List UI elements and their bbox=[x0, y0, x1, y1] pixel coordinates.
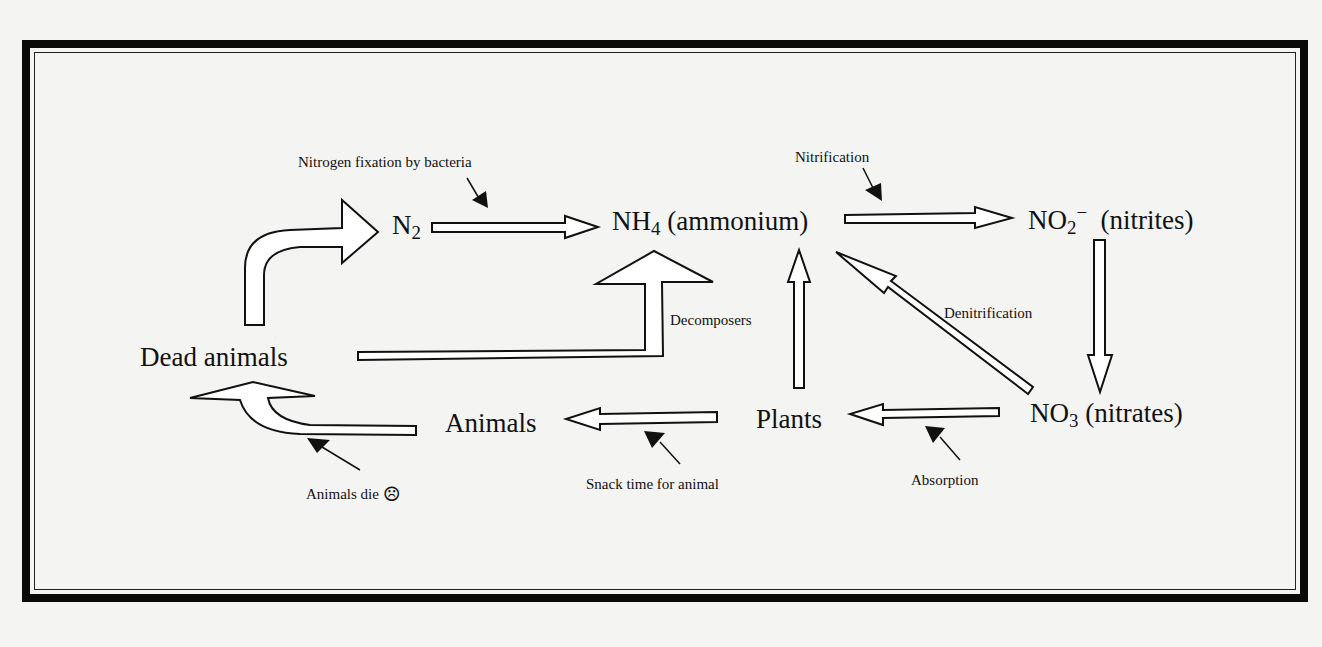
arrow-dead-to-nh4 bbox=[358, 251, 713, 360]
label-denitrification: Denitrification bbox=[944, 306, 1032, 321]
node-no3: NO3 (nitrates) bbox=[1030, 400, 1183, 431]
arrows-layer bbox=[0, 0, 1322, 647]
sad-face-icon: ☹ bbox=[383, 483, 401, 505]
arrow-n2-to-nh4 bbox=[432, 216, 598, 238]
arrow-no2-to-no3 bbox=[1088, 240, 1112, 392]
label-decomposers: Decomposers bbox=[670, 313, 752, 328]
label-snack-time: Snack time for animal bbox=[586, 477, 719, 492]
node-n2: N2 bbox=[392, 212, 421, 243]
pointer-nitrification bbox=[865, 183, 882, 201]
pointer-nitrogen-fixation bbox=[472, 191, 488, 208]
arrow-nh4-to-no2 bbox=[845, 207, 1012, 228]
arrow-no3-to-plants bbox=[850, 404, 999, 425]
node-dead-animals: Dead animals bbox=[140, 344, 288, 371]
label-nitrification: Nitrification bbox=[795, 150, 869, 165]
node-animals: Animals bbox=[445, 410, 537, 437]
curved-arrow-dead-to-n2 bbox=[245, 200, 378, 325]
node-no2: NO2− (nitrites) bbox=[1028, 204, 1194, 238]
node-nh4: NH4 (ammonium) bbox=[612, 208, 808, 239]
pointer-animals-die bbox=[307, 438, 330, 453]
arrow-plants-to-nh4 bbox=[788, 250, 810, 388]
pointer-snack-time bbox=[644, 431, 665, 448]
arrow-no3-to-nh4 bbox=[836, 252, 1033, 394]
arrow-plants-to-animals bbox=[566, 408, 717, 430]
arrow-animals-to-dead bbox=[190, 382, 416, 435]
label-animals-die: Animals die ☹ bbox=[306, 484, 401, 504]
node-plants: Plants bbox=[756, 406, 822, 433]
label-absorption: Absorption bbox=[911, 473, 979, 488]
label-nitrogen-fixation: Nitrogen fixation by bacteria bbox=[298, 155, 472, 170]
pointer-absorption bbox=[925, 426, 945, 443]
